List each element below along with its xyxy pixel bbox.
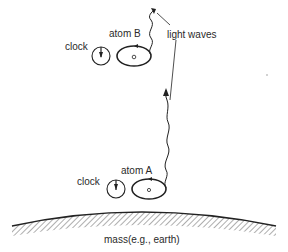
atom-a-label: atom A [121,166,152,176]
gravitational-redshift-diagram [0,0,288,252]
light-wave-b [149,8,156,55]
clock-b-icon [92,47,110,65]
mass-label: mass(e.g., earth) [104,235,180,245]
atom-b-icon [117,44,151,66]
clock-a-label: clock [77,177,100,187]
orbit-arrow-icon [134,44,138,48]
label-leader-lines [157,13,176,100]
atom-b-label: atom B [109,29,141,39]
clock-a-icon [107,180,125,198]
clock-b-label: clock [65,42,88,52]
arrowhead-icon [163,88,169,96]
arrowhead-icon [151,8,156,14]
orbit-arrow-icon [148,177,152,181]
atom-a-icon [132,177,166,199]
light-wave-a [163,88,169,188]
earth-surface [12,212,276,236]
light-waves-label: light waves [167,30,216,40]
